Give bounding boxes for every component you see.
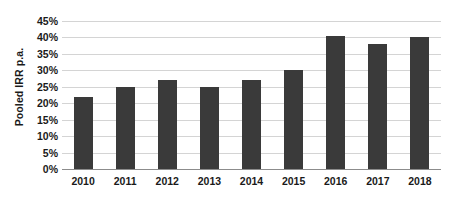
y-axis-tick-label: 10% [26, 130, 58, 142]
y-axis-tick-label: 35% [26, 48, 58, 60]
x-axis-tick-label-2014: 2014 [230, 174, 272, 188]
y-axis-tick-label: 45% [26, 15, 58, 27]
bar-chart: Pooled IRR p.a. 0%5%10%15%20%25%30%35%40… [0, 0, 454, 200]
x-axis-line [62, 169, 441, 170]
y-axis-tick-label: 40% [26, 31, 58, 43]
bar-2017[interactable] [368, 44, 387, 169]
bar-2015[interactable] [284, 70, 303, 169]
y-axis-tick-labels: 0%5%10%15%20%25%30%35%40%45% [26, 14, 58, 170]
y-axis-tick-label: 25% [26, 81, 58, 93]
bar-2013[interactable] [200, 87, 219, 169]
y-axis-tick-label: 0% [26, 163, 58, 175]
x-axis-tick-label-2018: 2018 [399, 174, 441, 188]
y-axis-tick-label: 20% [26, 97, 58, 109]
bar-2012[interactable] [158, 80, 177, 169]
y-axis-tick-label: 30% [26, 64, 58, 76]
bar-2018[interactable] [410, 37, 429, 169]
y-axis-tick-label: 5% [26, 147, 58, 159]
x-axis-tick-label-2013: 2013 [188, 174, 230, 188]
bar-2010[interactable] [74, 97, 93, 169]
x-axis-tick-label-2017: 2017 [357, 174, 399, 188]
y-axis-tick-label: 15% [26, 114, 58, 126]
bar-2016[interactable] [326, 36, 345, 169]
bar-2014[interactable] [242, 80, 261, 169]
x-axis-tick-label-2015: 2015 [273, 174, 315, 188]
x-axis-tick-label-2011: 2011 [104, 174, 146, 188]
x-axis-tick-label-2010: 2010 [62, 174, 104, 188]
x-axis-tick-label-2016: 2016 [315, 174, 357, 188]
bars-layer [62, 21, 441, 169]
x-axis-tick-label-2012: 2012 [146, 174, 188, 188]
bar-2011[interactable] [116, 87, 135, 169]
x-axis-tick-labels: 201020112012201320142015201620172018 [62, 174, 441, 190]
